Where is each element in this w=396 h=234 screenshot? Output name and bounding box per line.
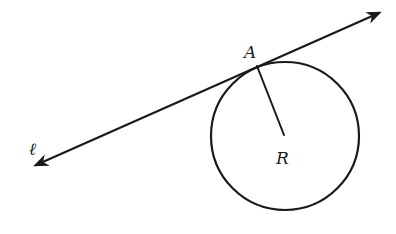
line-l bbox=[36, 13, 379, 165]
label-point-a: A bbox=[242, 42, 256, 62]
circle-r bbox=[211, 62, 359, 210]
label-line-l: ℓ bbox=[29, 139, 36, 159]
label-center-r: R bbox=[275, 148, 289, 168]
radius-segment-ar bbox=[257, 66, 284, 135]
tangent-circle-diagram: A R ℓ bbox=[0, 0, 396, 234]
